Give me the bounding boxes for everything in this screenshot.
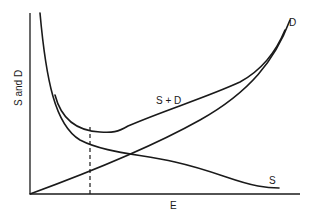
curve-d-label: D: [289, 17, 296, 28]
y-axis-label: S and D: [13, 70, 24, 106]
x-axis-label: E: [170, 200, 177, 211]
curve-s-plus-d: [55, 30, 285, 132]
curve-sum-label: S + D: [156, 95, 181, 106]
chart: S and D E S + D D S: [0, 0, 315, 214]
curve-s-label: S: [269, 175, 276, 186]
curve-d: [30, 20, 290, 194]
